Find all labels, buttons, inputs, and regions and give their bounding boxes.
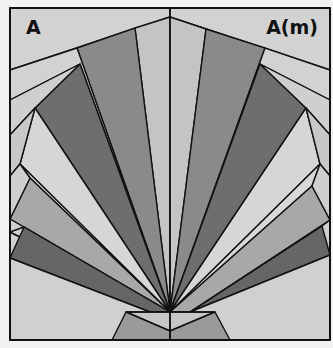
fan-diagram	[0, 0, 333, 348]
label-a: A	[26, 18, 41, 37]
label-a-mirrored: A(m)	[266, 18, 318, 37]
